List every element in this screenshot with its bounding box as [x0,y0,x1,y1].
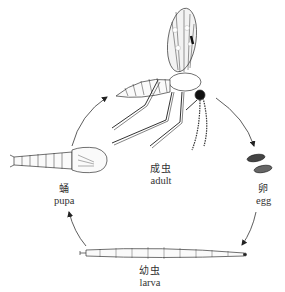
label-egg-zh: 卵 [256,183,271,195]
label-adult-zh: 成虫 [150,163,172,175]
label-egg: 卵 egg [256,183,271,207]
label-pupa-zh: 蛹 [54,183,74,195]
life-cycle-diagram: 成虫 adult 卵 egg 幼虫 larva 蛹 pupa [0,0,285,292]
arrow-larva-to-pupa [69,212,86,246]
label-larva: 幼虫 larva [139,265,161,289]
arrow-egg-to-larva [242,212,256,245]
label-adult-en: adult [150,175,172,187]
pupa-icon [10,147,107,172]
label-egg-en: egg [256,195,271,207]
life-cycle-artwork [0,0,285,292]
arrow-pupa-to-adult [72,97,107,146]
larva-icon [80,247,247,259]
adult-mosquito-icon [112,6,207,150]
label-adult: 成虫 adult [150,163,172,187]
label-larva-en: larva [139,277,161,289]
arrow-adult-to-egg [216,98,254,146]
label-pupa-en: pupa [54,195,74,207]
eggs-icon [247,153,273,174]
label-larva-zh: 幼虫 [139,265,161,277]
label-pupa: 蛹 pupa [54,183,74,207]
